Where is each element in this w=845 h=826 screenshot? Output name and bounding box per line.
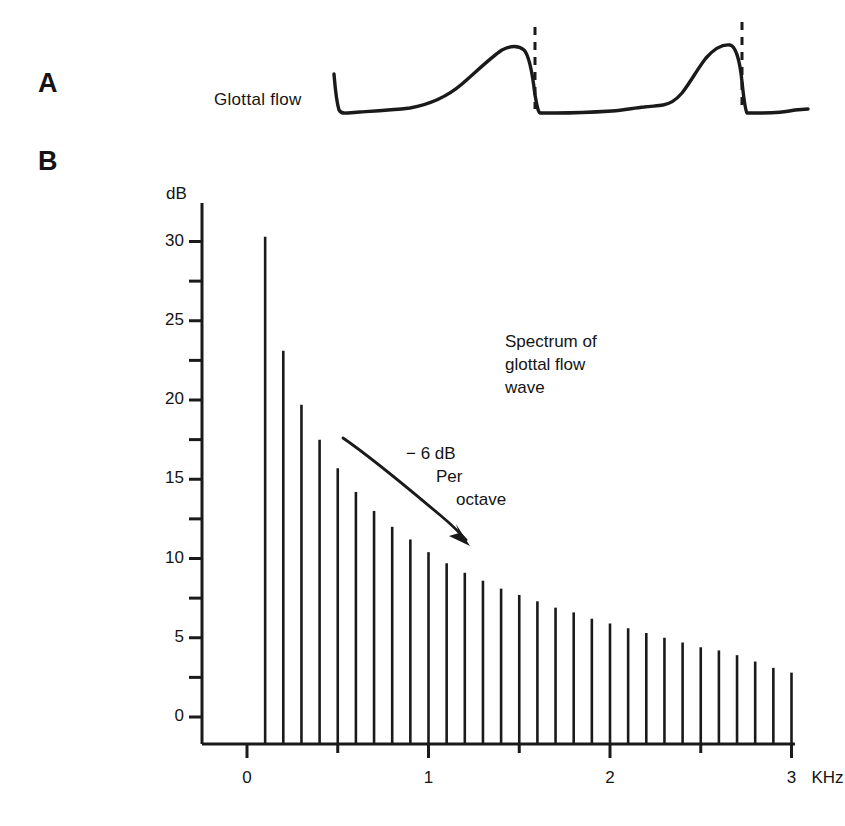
y-tick-label-0: 0 bbox=[140, 706, 184, 726]
y-tick-label-10: 10 bbox=[140, 548, 184, 568]
slope-annotation: − 6 dBPeroctave bbox=[406, 443, 506, 512]
x-tick-label-0: 0 bbox=[225, 768, 269, 788]
y-axis-title: dB bbox=[166, 183, 187, 206]
glottal-flow-label: Glottal flow bbox=[214, 89, 302, 112]
y-tick-label-30: 30 bbox=[140, 231, 184, 251]
spectrum-caption-line-2: glottal flow bbox=[505, 355, 585, 374]
slope-annotation-line-1: − 6 dB bbox=[406, 444, 456, 463]
spectrum-caption-line-1: Spectrum of bbox=[505, 332, 597, 351]
figure-container: A B Glottal flow dB Spectrum ofglottal f… bbox=[0, 0, 845, 826]
panel-a-letter: A bbox=[38, 70, 58, 97]
y-tick-label-20: 20 bbox=[140, 389, 184, 409]
panel-b-letter: B bbox=[38, 148, 58, 175]
spectrum-lines bbox=[265, 237, 791, 744]
y-tick-label-5: 5 bbox=[140, 627, 184, 647]
x-tick-label-1: 1 bbox=[407, 768, 451, 788]
glottal-flow-waveform bbox=[334, 45, 808, 113]
x-axis-units-label: KHz bbox=[812, 768, 844, 788]
y-axis-ticks bbox=[189, 242, 202, 718]
y-tick-label-15: 15 bbox=[140, 468, 184, 488]
vector-layer bbox=[0, 0, 845, 826]
x-tick-label-2: 2 bbox=[588, 768, 632, 788]
spectrum-caption-line-3: wave bbox=[505, 378, 545, 397]
slope-annotation-line-2: Per bbox=[436, 466, 462, 489]
x-tick-label-3: 3 bbox=[770, 768, 814, 788]
spectrum-caption: Spectrum ofglottal flowwave bbox=[505, 331, 597, 400]
y-tick-label-25: 25 bbox=[140, 310, 184, 330]
x-axis-ticks bbox=[247, 744, 792, 758]
slope-annotation-line-3: octave bbox=[456, 489, 506, 512]
closure-dashed-lines bbox=[535, 22, 742, 109]
